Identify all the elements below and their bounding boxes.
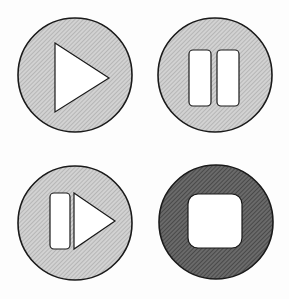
pause-icon bbox=[155, 15, 275, 135]
step-forward-icon bbox=[15, 163, 135, 283]
play-icon bbox=[15, 15, 135, 135]
step-forward-button[interactable]: Step Forward bbox=[15, 163, 135, 283]
stop-icon bbox=[156, 162, 276, 282]
play-button[interactable]: Play bbox=[15, 15, 135, 135]
stop-button[interactable]: Stop bbox=[156, 162, 276, 282]
pause-button[interactable]: Pause bbox=[155, 15, 275, 135]
